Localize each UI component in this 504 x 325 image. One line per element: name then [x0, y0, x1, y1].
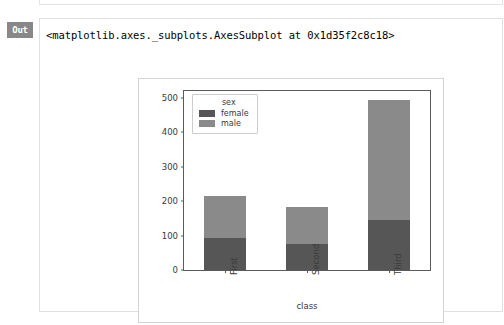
x-tick-label: Second — [311, 244, 321, 275]
legend-label: female — [221, 109, 249, 118]
legend-swatch-female — [199, 110, 215, 117]
bar-segment-female — [286, 244, 329, 270]
bar-stack — [286, 207, 329, 270]
legend-label: male — [221, 119, 241, 128]
output-repr-text: <matplotlib.axes._subplots.AxesSubplot a… — [46, 29, 394, 41]
y-tick-mark — [181, 201, 184, 202]
legend-title: sex — [199, 98, 249, 107]
chart-axes: 0100200300400500 FirstSecondThird sex fe… — [183, 90, 431, 271]
bar-segment-female — [204, 238, 247, 270]
matplotlib-figure: 0100200300400500 FirstSecondThird sex fe… — [138, 78, 444, 323]
output-prompt-label: Out — [7, 22, 33, 38]
legend-swatch-male — [199, 120, 215, 127]
notebook-output-cell: 0100200300400500 FirstSecondThird sex fe… — [39, 18, 503, 312]
bar-stack — [368, 100, 411, 270]
screenshot-root: 0100200300400500 FirstSecondThird sex fe… — [0, 0, 504, 325]
legend-item: male — [199, 119, 249, 128]
y-tick-mark — [181, 97, 184, 98]
legend-item: female — [199, 109, 249, 118]
bar-stack — [204, 196, 247, 270]
bar-segment-male — [368, 100, 411, 219]
bar-segment-female — [368, 220, 411, 270]
y-tick-mark — [181, 235, 184, 236]
legend-entries: femalemale — [199, 109, 249, 128]
previous-cell — [39, 0, 503, 5]
y-tick-mark — [181, 132, 184, 133]
x-tick-mark — [225, 270, 226, 273]
bar-segment-male — [286, 207, 329, 244]
x-tick-mark — [307, 270, 308, 273]
y-tick-mark — [181, 270, 184, 271]
x-tick-mark — [389, 270, 390, 273]
x-tick-label: Third — [393, 253, 403, 275]
x-tick-label: First — [229, 257, 239, 275]
chart-legend: sex femalemale — [192, 94, 258, 134]
x-axis-label: class — [183, 301, 431, 311]
y-tick-mark — [181, 166, 184, 167]
bar-segment-male — [204, 196, 247, 238]
